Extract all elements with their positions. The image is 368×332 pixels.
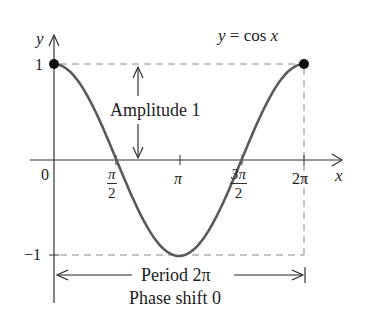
x-tick-three-half-pi: 3π 2	[230, 167, 247, 201]
title-eq: = cos	[226, 26, 271, 45]
y-axis-label: y	[36, 30, 44, 47]
x-tick-2pi: 2π	[292, 171, 308, 187]
phase-shift-label: Phase shift 0	[129, 289, 221, 307]
title-x: x	[271, 26, 279, 45]
period-label: Period 2π	[141, 266, 211, 284]
x-tick-half-pi: π 2	[107, 167, 117, 201]
point-start	[49, 59, 59, 69]
y-tick-neg1: −1	[24, 247, 41, 263]
point-end	[299, 59, 309, 69]
x-axis-label: x	[335, 167, 343, 184]
y-tick-1: 1	[35, 57, 43, 73]
title-y: y	[218, 26, 226, 45]
amplitude-label: Amplitude 1	[110, 101, 201, 119]
origin-label: 0	[41, 167, 49, 183]
x-tick-pi: π	[174, 171, 182, 187]
axes	[30, 35, 342, 303]
chart-title: y = cos x	[218, 27, 278, 44]
